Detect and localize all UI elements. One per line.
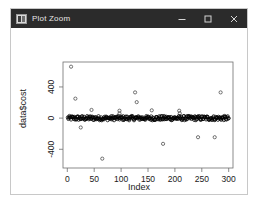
minimize-icon [177,14,187,24]
data-point [150,109,153,112]
data-point [79,126,82,129]
data-point [196,136,199,139]
y-axis-label: data$cost [18,88,28,128]
data-point [213,136,216,139]
data-point [101,157,104,160]
x-tick-label: 100 [114,174,128,184]
x-axis-ticks: 050100150200250300 [65,168,236,184]
x-tick-label: 0 [65,174,70,184]
x-tick-label: 150 [141,174,155,184]
data-point [74,97,77,100]
window-controls [169,9,247,28]
data-point [161,142,164,145]
data-point [133,91,136,94]
screen: Plot Zoom [0,0,258,212]
maximize-icon [203,14,213,24]
x-tick-label: 250 [195,174,209,184]
close-icon [229,14,239,24]
data-band-points [66,114,230,122]
plot-canvas: data$cost Index -4000400 050100150200250… [11,28,247,194]
data-point [69,65,72,68]
window-title: Plot Zoom [32,9,70,28]
x-tick-label: 300 [222,174,236,184]
data-outlier-points [69,65,222,160]
x-tick-label: 50 [89,174,99,184]
window-titlebar[interactable]: Plot Zoom [11,9,247,28]
plot-zoom-window: Plot Zoom [10,8,248,195]
minimize-button[interactable] [169,9,195,28]
y-tick-label: 400 [46,80,56,94]
y-tick-label: 0 [46,115,56,120]
data-point [219,91,222,94]
data-point [90,108,93,111]
x-tick-label: 200 [168,174,182,184]
y-tick-label: -400 [46,141,56,158]
plot-window-icon [16,14,27,24]
y-axis-ticks: -4000400 [46,80,63,158]
close-button[interactable] [221,9,247,28]
scatter-plot: data$cost Index -4000400 050100150200250… [11,28,247,194]
maximize-button[interactable] [195,9,221,28]
data-point [135,101,138,104]
